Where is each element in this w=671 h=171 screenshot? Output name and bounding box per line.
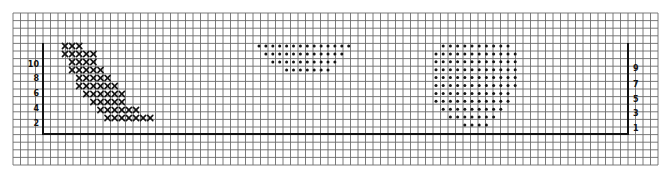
dot-mark (306, 69, 309, 72)
dot-mark (306, 61, 309, 64)
dot-mark (306, 53, 309, 56)
dot-mark (485, 100, 488, 103)
dot-mark (478, 52, 481, 55)
dot-mark (340, 53, 343, 56)
left-axis-label: 8 (33, 74, 39, 83)
dot-mark (442, 84, 445, 87)
right-axis-label: 3 (633, 109, 639, 118)
dot-mark (306, 45, 309, 48)
dot-mark (499, 45, 502, 48)
dot-mark (278, 61, 281, 64)
dot-mark (264, 53, 267, 56)
dot-mark (485, 60, 488, 63)
dot-mark (471, 76, 474, 79)
dot-mark (449, 76, 452, 79)
left-axis-label: 4 (33, 104, 39, 113)
dot-mark (327, 45, 330, 48)
dot-mark (478, 60, 481, 63)
dot-mark (492, 60, 495, 63)
dot-mark (507, 52, 510, 55)
dot-mark (485, 124, 488, 127)
dot-mark (456, 45, 459, 48)
dot-mark (485, 84, 488, 87)
dot-mark (442, 76, 445, 79)
dot-mark (463, 108, 466, 111)
dot-mark (442, 60, 445, 63)
dot-mark (478, 108, 481, 111)
dot-mark (258, 45, 261, 48)
right-axis-label: 5 (633, 95, 639, 104)
dot-mark (442, 100, 445, 103)
dot-mark (285, 61, 288, 64)
dot-mark (463, 60, 466, 63)
dot-mark (507, 100, 510, 103)
dot-mark (292, 61, 295, 64)
dot-mark (449, 100, 452, 103)
dot-mark (456, 52, 459, 55)
dot-mark (313, 61, 316, 64)
dot-mark (492, 76, 495, 79)
dot-mark (442, 92, 445, 95)
dot-mark (299, 61, 302, 64)
dot-mark (449, 116, 452, 119)
dot-mark (456, 84, 459, 87)
dot-mark (435, 84, 438, 87)
left-axis-label: 6 (33, 89, 39, 98)
dot-mark (478, 45, 481, 48)
dot-mark (320, 61, 323, 64)
dot-mark (442, 45, 445, 48)
dot-mark (507, 76, 510, 79)
dot-mark (435, 92, 438, 95)
dot-mark (333, 53, 336, 56)
dot-mark (485, 116, 488, 119)
right-axis-label: 7 (633, 80, 639, 89)
dot-mark (514, 60, 517, 63)
dot-mark (485, 92, 488, 95)
dot-mark (320, 53, 323, 56)
dot-mark (442, 108, 445, 111)
dot-mark (485, 76, 488, 79)
dot-mark (471, 100, 474, 103)
dot-mark (456, 100, 459, 103)
dot-mark (492, 52, 495, 55)
dot-mark (442, 52, 445, 55)
dot-mark (471, 108, 474, 111)
graph-paper-figure: 10 8 6 4 2 9 7 5 3 1 (0, 0, 671, 171)
dot-mark (299, 53, 302, 56)
dot-mark (492, 100, 495, 103)
dot-mark (463, 84, 466, 87)
dot-mark (463, 116, 466, 119)
dot-mark (478, 116, 481, 119)
dot-mark (514, 52, 517, 55)
dot-mark (292, 53, 295, 56)
dot-mark (478, 84, 481, 87)
dot-mark (463, 52, 466, 55)
dot-mark (456, 108, 459, 111)
dot-mark (485, 52, 488, 55)
dot-mark (507, 45, 510, 48)
dot-mark (313, 53, 316, 56)
dot-mark (471, 116, 474, 119)
dot-mark (435, 60, 438, 63)
dot-mark (514, 84, 517, 87)
dot-mark (271, 61, 274, 64)
dot-mark (463, 45, 466, 48)
dot-mark (499, 100, 502, 103)
dot-mark (492, 45, 495, 48)
dot-mark (463, 100, 466, 103)
dot-mark (478, 100, 481, 103)
dot-mark (271, 45, 274, 48)
dot-mark (478, 68, 481, 71)
dot-mark (463, 124, 466, 127)
dot-mark (471, 52, 474, 55)
dot-mark (271, 53, 274, 56)
dot-mark (264, 45, 267, 48)
dot-mark (463, 76, 466, 79)
dot-mark (492, 116, 495, 119)
dot-mark (292, 45, 295, 48)
dot-mark (435, 68, 438, 71)
left-axis-label: 10 (28, 60, 40, 69)
dot-mark (292, 69, 295, 72)
dot-mark (456, 76, 459, 79)
dot-mark (485, 68, 488, 71)
